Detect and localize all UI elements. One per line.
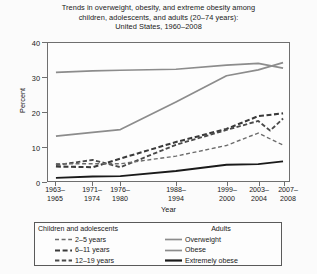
legend-label-12-19-years: 12–19 years	[75, 257, 114, 265]
legend-heading-children: Children and adolescents	[38, 225, 165, 235]
x-tick-label-1988-1994: 1988– 1994	[153, 186, 199, 204]
legend-item-obese: Obese	[165, 245, 277, 256]
x-tick-label-1988-1994-line1: 1988–	[153, 186, 199, 195]
legend-group-adults: Adults Overweight Obese	[165, 225, 277, 266]
legend-group-children: Children and adolescents 2–5 years	[38, 225, 165, 266]
legend-label-2-5-years: 2–5 years	[75, 236, 106, 244]
legend-item-6-11-years: 6–11 years	[38, 245, 165, 256]
y-tick-label-10: 10	[18, 144, 40, 153]
chart-title-line-1: Trends in overweight, obesity, and extre…	[0, 3, 317, 13]
x-tick-label-1988-1994-line2: 1994	[153, 195, 199, 204]
chart-figure: Trends in overweight, obesity, and extre…	[0, 0, 317, 274]
legend-item-extremely-obese: Extremely obese	[165, 256, 277, 267]
legend-item-overweight: Overweight	[165, 235, 277, 246]
legend-item-2-5-years: 2–5 years	[38, 235, 165, 246]
chart-title-line-3: United States, 1960–2008	[0, 22, 317, 32]
x-tick-label-1976-1980-line2: 1980	[97, 195, 143, 204]
y-tick-label-30: 30	[18, 74, 40, 83]
chart-legend: Children and adolescents 2–5 years	[34, 222, 282, 266]
x-tick-label-2007-2008-line2: 2008	[265, 195, 311, 204]
legend-label-overweight: Overweight	[185, 236, 221, 244]
x-tick-label-1976-1980-line1: 1976–	[97, 186, 143, 195]
legend-label-6-11-years: 6–11 years	[75, 246, 110, 254]
x-axis-title: Year	[47, 205, 290, 214]
plot-area	[47, 42, 290, 182]
line-sample-dashed-thick-icon	[55, 247, 72, 254]
line-sample-dashed-medium-icon	[55, 257, 72, 264]
series-line-obese	[56, 63, 283, 136]
x-tick-label-2007-2008-line1: 2007–	[265, 186, 311, 195]
series-line-6-11-years	[56, 113, 283, 167]
legend-item-12-19-years: 12–19 years	[38, 256, 165, 267]
x-tick-label-1976-1980: 1976– 1980	[97, 186, 143, 204]
y-tick-mark-0	[42, 182, 47, 183]
plot-lines	[48, 43, 289, 181]
legend-heading-adults: Adults	[165, 225, 277, 235]
line-sample-dashed-thin-icon	[55, 236, 72, 243]
y-tick-label-20: 20	[18, 109, 40, 118]
chart-title: Trends in overweight, obesity, and extre…	[0, 3, 317, 32]
series-line-2-5-years	[56, 133, 283, 164]
y-tick-label-40: 40	[18, 39, 40, 48]
legend-label-obese: Obese	[185, 246, 206, 254]
line-sample-solid-gray-obese-icon	[165, 247, 182, 254]
chart-title-line-2: children, adolescents, and adults (20–74…	[0, 13, 317, 23]
legend-label-extremely-obese: Extremely obese	[185, 257, 238, 265]
x-tick-label-2007-2008: 2007– 2008	[265, 186, 311, 204]
line-sample-solid-gray-overweight-icon	[165, 236, 182, 243]
line-sample-solid-black-icon	[165, 257, 182, 264]
